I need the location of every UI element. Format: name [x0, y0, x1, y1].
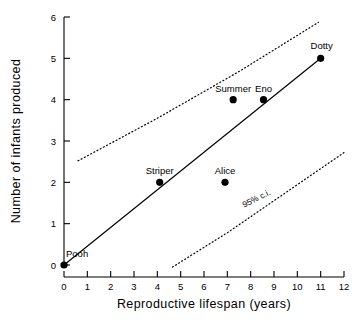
ci-polyline	[173, 153, 345, 268]
x-tick-label: 0	[61, 281, 66, 292]
x-tick-label: 3	[131, 281, 136, 292]
point-label-pooh: Pooh	[66, 248, 88, 259]
data-point-pooh	[60, 261, 67, 268]
y-tick-label: 3	[51, 136, 56, 147]
x-axis-ticks: 0123456789101112	[61, 271, 349, 292]
y-axis-ticks: 0123456	[51, 12, 70, 271]
chart-annotations: 95% c.i.	[241, 187, 272, 210]
x-tick-label: 11	[316, 281, 326, 292]
y-tick-label: 2	[51, 177, 56, 188]
ci-annotation-label: 95% c.i.	[241, 187, 272, 210]
confidence-interval-lines	[78, 22, 344, 267]
x-tick-label: 8	[248, 281, 253, 292]
regression-polyline	[64, 58, 321, 265]
regression-line	[64, 58, 321, 265]
data-point-summer	[230, 96, 237, 103]
point-label-dotty: Dotty	[311, 40, 333, 51]
y-axis-title: Number of infants produced	[9, 59, 23, 224]
y-tick-label: 6	[51, 12, 56, 23]
point-label-eno: Eno	[255, 83, 272, 94]
data-point-alice	[221, 179, 228, 186]
y-tick-label: 5	[51, 53, 56, 64]
x-tick-label: 4	[155, 281, 160, 292]
data-point-labels: PoohStriperAliceSummerEnoDotty	[66, 40, 333, 259]
x-tick-label: 2	[108, 281, 113, 292]
scatter-plot-figure: 0123456 0123456789101112 PoohStriperAlic…	[0, 0, 363, 324]
x-tick-label: 1	[85, 281, 90, 292]
ci-polyline	[78, 22, 318, 160]
data-point-dotty	[317, 55, 324, 62]
point-label-summer: Summer	[215, 83, 251, 94]
data-point-eno	[260, 96, 267, 103]
y-tick-label: 1	[51, 218, 56, 229]
x-tick-label: 12	[339, 281, 350, 292]
x-tick-label: 5	[178, 281, 183, 292]
x-tick-label: 9	[271, 281, 276, 292]
point-label-striper: Striper	[146, 165, 174, 176]
plot-canvas: 0123456 0123456789101112 PoohStriperAlic…	[0, 0, 363, 324]
point-label-alice: Alice	[215, 165, 236, 176]
x-tick-label: 10	[292, 281, 303, 292]
x-axis-title: Reproductive lifespan (years)	[117, 297, 291, 311]
data-point-striper	[156, 179, 163, 186]
x-tick-label: 7	[225, 281, 230, 292]
y-tick-label: 4	[51, 94, 56, 105]
x-tick-label: 6	[201, 281, 206, 292]
y-tick-label: 0	[51, 260, 56, 271]
